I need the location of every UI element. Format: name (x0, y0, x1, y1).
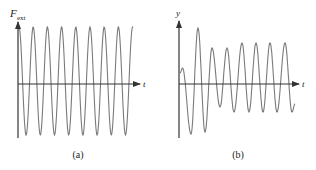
y-axis-label-b: y (175, 8, 180, 18)
caption-b: (b) (232, 149, 244, 161)
caption-a: (a) (72, 149, 83, 161)
y-axis-label-a: F (9, 7, 17, 19)
response-curve (180, 28, 295, 134)
y-axis-subscript-a: ext (17, 14, 26, 22)
panel-b: y t (b) (175, 8, 305, 161)
panel-a: F ext t (a) (9, 7, 146, 161)
x-axis-label-b: t (302, 79, 305, 89)
x-axis-label-a: t (143, 79, 146, 89)
figure: F ext t (a) y t (b) (0, 0, 316, 170)
driving-force-curve (19, 27, 133, 135)
